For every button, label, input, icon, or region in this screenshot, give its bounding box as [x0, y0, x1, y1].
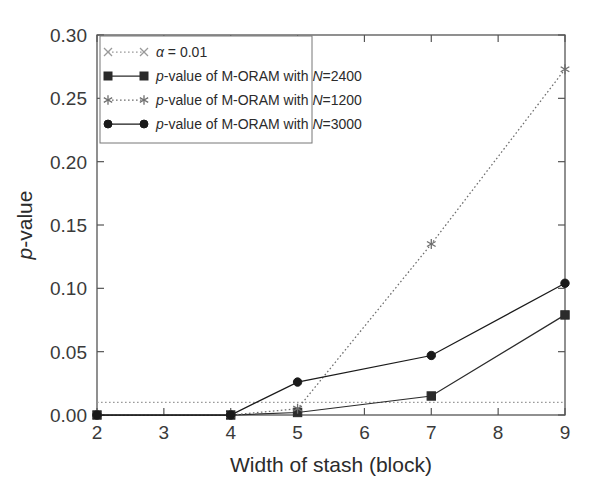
x-tick-label: 4 — [225, 422, 236, 443]
legend-label: p-value of M-ORAM with N=3000 — [155, 116, 362, 132]
y-tick-label: 0.05 — [50, 342, 87, 363]
y-tick-label: 0.00 — [50, 405, 87, 426]
y-tick-label: 0.15 — [50, 215, 87, 236]
x-axis-title: Width of stash (block) — [230, 453, 432, 476]
y-tick-label: 0.30 — [50, 25, 87, 46]
figure-container: 0.000.050.100.150.200.250.30 23456789 α … — [0, 0, 610, 486]
x-tick-label: 2 — [92, 422, 103, 443]
x-tick-label: 9 — [560, 422, 571, 443]
y-axis-title: p-value — [13, 191, 36, 261]
legend-label: p-value of M-ORAM with N=1200 — [155, 92, 362, 108]
legend-label: p-value of M-ORAM with N=2400 — [155, 68, 362, 84]
legend-label: α = 0.01 — [156, 44, 207, 60]
y-tick-label: 0.20 — [50, 152, 87, 173]
x-tick-label: 6 — [359, 422, 370, 443]
x-tick-label: 8 — [493, 422, 504, 443]
line-chart: 0.000.050.100.150.200.250.30 23456789 α … — [0, 0, 610, 486]
x-tick-label: 3 — [159, 422, 170, 443]
y-tick-label: 0.10 — [50, 278, 87, 299]
y-tick-label: 0.25 — [50, 88, 87, 109]
x-tick-label: 5 — [292, 422, 303, 443]
x-tick-label: 7 — [426, 422, 437, 443]
